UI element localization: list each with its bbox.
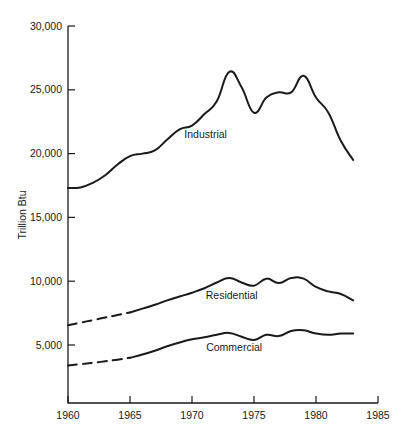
series-label-commercial: Commercial bbox=[206, 341, 262, 353]
x-tick-label: 1970 bbox=[180, 409, 204, 421]
x-tick-label: 1975 bbox=[242, 409, 266, 421]
x-tick-label: 1985 bbox=[366, 409, 390, 421]
x-axis-ticks bbox=[68, 396, 378, 403]
y-tick-label: 15,000 bbox=[30, 211, 62, 223]
energy-consumption-chart: 5,00010,00015,00020,00025,00030,000 1960… bbox=[0, 0, 407, 435]
x-tick-label: 1980 bbox=[304, 409, 328, 421]
series-label-industrial: Industrial bbox=[184, 128, 227, 140]
x-tick-label: 1960 bbox=[56, 409, 80, 421]
y-tick-label: 10,000 bbox=[30, 275, 62, 287]
series-line-commercial-estimated bbox=[68, 358, 130, 366]
series-label-residential: Residential bbox=[206, 289, 258, 301]
series-lines bbox=[68, 71, 353, 365]
y-tick-label: 25,000 bbox=[30, 83, 62, 95]
chart-canvas: 5,00010,00015,00020,00025,00030,000 1960… bbox=[0, 0, 407, 435]
y-axis-title: Trillion Btu bbox=[16, 190, 28, 239]
y-axis-ticks bbox=[68, 26, 75, 345]
y-tick-label: 30,000 bbox=[30, 20, 62, 32]
y-axis-tick-labels: 5,00010,00015,00020,00025,00030,000 bbox=[30, 20, 62, 351]
x-tick-label: 1965 bbox=[118, 409, 142, 421]
series-line-residential-estimated bbox=[68, 312, 130, 325]
y-tick-label: 5,000 bbox=[36, 339, 62, 351]
series-annotations: IndustrialResidentialCommercial bbox=[184, 128, 262, 353]
y-tick-label: 20,000 bbox=[30, 147, 62, 159]
x-axis-tick-labels: 196019651970197519801985 bbox=[56, 409, 390, 421]
